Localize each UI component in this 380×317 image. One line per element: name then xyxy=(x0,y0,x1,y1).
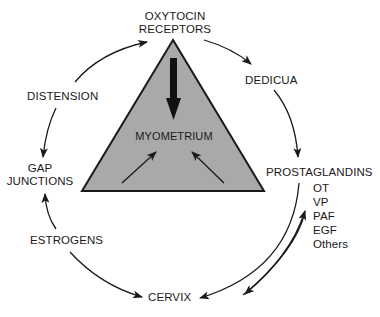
gap-line1: GAP xyxy=(4,162,76,175)
arrow-dedicua-to-prostaglandins xyxy=(274,90,298,157)
arrow-prostaglandins-to-cervix xyxy=(200,183,299,298)
arrow-distension-to-oxytocin xyxy=(75,42,147,82)
gap-line2: JUNCTIONS xyxy=(4,175,76,188)
arrow-distension-to-gap xyxy=(43,108,56,157)
sub-item-vp: VP xyxy=(313,195,348,209)
node-cervix: CERVIX xyxy=(148,291,191,304)
arrow-estrogens-to-cervix xyxy=(70,252,142,297)
arrow-cervix-to-prostaglandins xyxy=(243,211,305,295)
sub-item-egf: EGF xyxy=(313,223,348,237)
sub-item-ot: OT xyxy=(313,181,348,195)
sub-item-paf: PAF xyxy=(313,209,348,223)
arrow-cervix-to-prostaglandins-head2 xyxy=(245,212,305,294)
cycle-diagram xyxy=(0,0,380,317)
node-estrogens: ESTROGENS xyxy=(30,234,103,247)
node-prostaglandins: PROSTAGLANDINS xyxy=(266,166,373,179)
center-myometrium: MYOMETRIUM xyxy=(128,130,220,143)
node-oxytocin-receptors: OXYTOCIN RECEPTORS xyxy=(133,10,217,36)
oxytocin-line2: RECEPTORS xyxy=(133,23,217,36)
node-gap-junctions: GAP JUNCTIONS xyxy=(4,162,76,188)
arrow-estrogens-to-gap xyxy=(45,194,56,229)
arrow-oxytocin-to-dedicua xyxy=(204,40,251,64)
node-distension: DISTENSION xyxy=(27,90,98,103)
oxytocin-line1: OXYTOCIN xyxy=(133,10,217,23)
node-dedicua: DEDICUA xyxy=(245,74,297,87)
sub-item-others: Others xyxy=(313,237,348,251)
prostaglandins-sub-list: OT VP PAF EGF Others xyxy=(313,181,348,251)
